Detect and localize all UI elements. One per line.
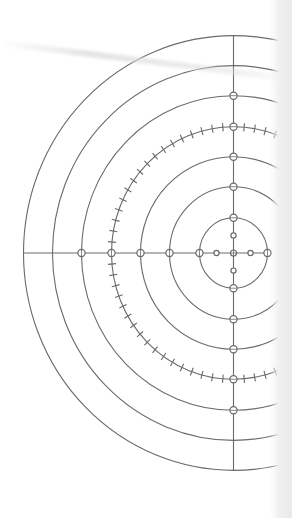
tick-mark bbox=[223, 123, 224, 131]
small-axis-dot bbox=[231, 268, 236, 273]
tick-mark bbox=[161, 146, 166, 153]
tick-mark bbox=[109, 274, 117, 275]
tick-mark bbox=[244, 123, 245, 131]
tick-mark bbox=[108, 264, 116, 265]
tick-mark bbox=[108, 242, 116, 243]
tick-mark bbox=[212, 125, 213, 133]
tick-mark bbox=[130, 323, 137, 328]
tick-mark bbox=[244, 375, 245, 383]
tick-mark bbox=[124, 314, 131, 318]
tick-mark bbox=[130, 178, 137, 183]
tick-mark bbox=[124, 188, 131, 192]
tick-mark bbox=[161, 353, 166, 360]
small-axis-dot bbox=[231, 233, 236, 238]
polar-target-diagram bbox=[0, 0, 292, 518]
tick-mark bbox=[254, 125, 255, 133]
page-edge-shadow bbox=[270, 0, 292, 518]
tick-mark bbox=[171, 359, 175, 366]
tick-mark bbox=[171, 140, 175, 147]
tick-mark bbox=[254, 373, 255, 381]
small-axis-dot bbox=[248, 250, 253, 255]
tick-mark bbox=[212, 373, 213, 381]
tick-mark bbox=[109, 230, 117, 231]
small-axis-dot bbox=[214, 250, 219, 255]
tick-mark bbox=[223, 375, 224, 383]
